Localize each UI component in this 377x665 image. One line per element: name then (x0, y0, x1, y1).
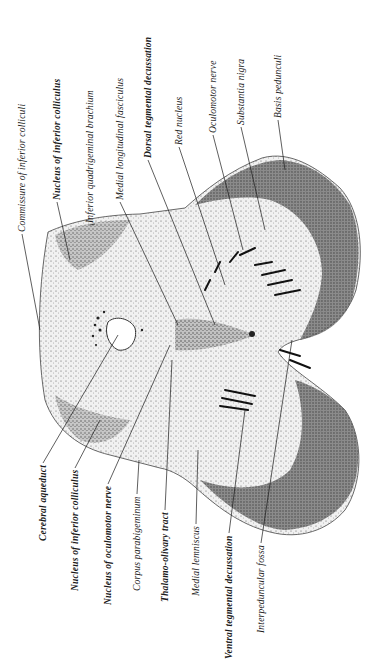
label-medial-longitudinal-fasciculus: Medial longitudinal fasciculus (115, 78, 125, 200)
label-nucleus-of-inferior-colliculus: Nucleus of inferior colliculus (52, 79, 62, 200)
label-medial-lemniscus: Medial lemniscus (191, 526, 201, 596)
label-substantia-nigra: Substantia nigra (236, 59, 246, 125)
label-oculomotor-nerve: Oculomotor nerve (208, 60, 218, 133)
label-red-nucleus: Red nucleus (174, 97, 184, 145)
label-corpus-parabigeminum: Corpus parabigeminum (132, 496, 142, 591)
label-ventral-tegmental-decussation: Ventral tegmental decussation (224, 535, 234, 659)
label-cerebral-aqueduct: Cerebral aqueduct (38, 465, 48, 541)
label-nucleus-of-oculomotor-nerve: Nucleus of oculomotor nerve (103, 486, 113, 605)
label-inferior-quadrigeminal-brachium: Inferior quadrigeminal brachium (85, 90, 95, 223)
decussation-center (249, 331, 255, 337)
label-nucleus-of-inferior-colliculus: Nucleus of inferior colliculus (70, 470, 80, 591)
label-commissure-of-inferior-colliculi: Commissure of inferior colliculi (17, 104, 27, 232)
label-basis-pedunculi: Basis pedunculi (273, 55, 283, 118)
label-interpeduncular-fossa: Interpeduncular fossa (256, 545, 266, 633)
label-dorsal-tegmental-decussation: Dorsal tegmental decussation (143, 37, 153, 158)
label-thalamo-olivary-tract: Thalamo-olivary tract (160, 512, 170, 602)
